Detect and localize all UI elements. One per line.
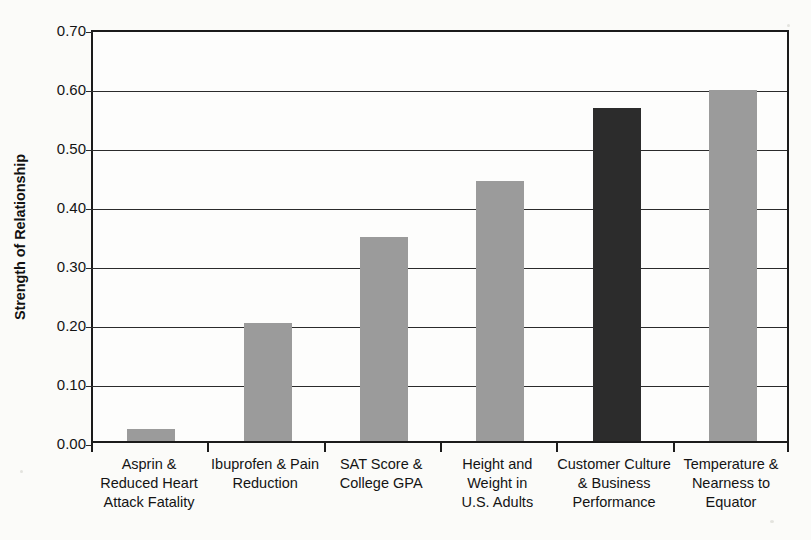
x-axis-category-label: Temperature &Nearness toEquator (673, 455, 789, 535)
gridline (93, 209, 787, 210)
x-axis-category-label-line: U.S. Adults (441, 493, 553, 512)
y-axis-tick-mark (86, 150, 93, 151)
y-axis-tick-mark (86, 268, 93, 269)
x-axis-tick-mark (556, 443, 558, 452)
x-axis-category-label-line: Asprin & (93, 455, 205, 474)
x-axis-category-label: SAT Score &College GPA (323, 455, 439, 535)
x-axis-category-label-line: Nearness to (675, 474, 787, 493)
x-axis-category-label-line: Ibuprofen & Pain (209, 455, 321, 474)
bar (476, 181, 524, 441)
x-axis-category-label: Customer Culture& BusinessPerformance (555, 455, 673, 535)
gridline (93, 91, 787, 92)
x-axis-category-labels: Asprin &Reduced HeartAttack FatalityIbup… (91, 455, 789, 535)
y-axis-tick-label: 0.30 (34, 259, 86, 274)
bar (593, 108, 641, 441)
scan-speck (787, 24, 790, 27)
x-axis-category-label-line: & Business (557, 474, 671, 493)
y-axis-tick-mark (86, 32, 93, 33)
y-axis-title: Strength of Relationship (8, 30, 32, 443)
y-axis-tick-label: 0.60 (34, 82, 86, 97)
y-axis-tick-labels: 0.700.600.500.400.300.200.100.00 (34, 0, 86, 540)
y-axis-tick-label: 0.10 (34, 377, 86, 392)
gridline (93, 150, 787, 151)
x-axis-category-label-line: College GPA (325, 474, 437, 493)
y-axis-tick-mark (86, 327, 93, 328)
y-axis-tick-label: 0.50 (34, 141, 86, 156)
x-axis-category-label: Height andWeight inU.S. Adults (439, 455, 555, 535)
plot-area (91, 30, 789, 443)
y-axis-tick-mark (86, 386, 93, 387)
x-axis-category-label: Ibuprofen & PainReduction (207, 455, 323, 535)
x-axis-tick-mark (207, 443, 209, 452)
y-axis-tick-label: 0.20 (34, 318, 86, 333)
x-axis-category-label-line: Equator (675, 493, 787, 512)
bar (244, 323, 292, 441)
x-axis-tick-mark (673, 443, 675, 452)
bar (360, 237, 408, 441)
gridline (93, 327, 787, 328)
x-axis-tick-mark (324, 443, 326, 452)
x-axis-category-label-line: Attack Fatality (93, 493, 205, 512)
x-axis-category-label: Asprin &Reduced HeartAttack Fatality (91, 455, 207, 535)
y-axis-tick-mark (86, 91, 93, 92)
gridline (93, 386, 787, 387)
bar-chart: Strength of Relationship 0.700.600.500.4… (0, 0, 811, 540)
x-axis-category-label-line: Reduced Heart (93, 474, 205, 493)
y-axis-tick-label: 0.70 (34, 23, 86, 38)
x-axis-tick-mark (440, 443, 442, 452)
x-axis-category-label-line: Height and (441, 455, 553, 474)
y-axis-tick-label: 0.40 (34, 200, 86, 215)
x-axis-category-label-line: Customer Culture (557, 455, 671, 474)
bar (709, 90, 757, 441)
x-axis-category-label-line: SAT Score & (325, 455, 437, 474)
gridline (93, 268, 787, 269)
y-axis-tick-mark (86, 209, 93, 210)
y-axis-title-text: Strength of Relationship (12, 154, 28, 320)
x-axis-category-label-line: Temperature & (675, 455, 787, 474)
scan-speck (20, 470, 23, 473)
x-axis-tick-mark (91, 443, 93, 452)
x-axis-category-label-line: Weight in (441, 474, 553, 493)
x-axis-tick-mark (787, 443, 789, 452)
x-axis-category-label-line: Reduction (209, 474, 321, 493)
bar (127, 429, 175, 441)
y-axis-tick-label: 0.00 (34, 436, 86, 451)
x-axis-category-label-line: Performance (557, 493, 671, 512)
x-axis-tick-marks (91, 443, 789, 453)
